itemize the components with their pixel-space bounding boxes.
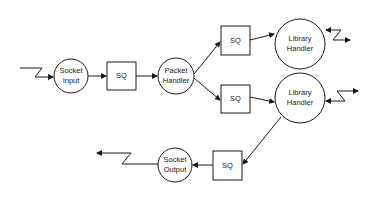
edge-library-handler-2-to-sq4	[243, 117, 281, 164]
socket-input-label-line2: Input	[63, 76, 80, 86]
sq-2-label: SQ	[221, 26, 250, 55]
edge-packet-handler-to-sq3	[194, 78, 220, 100]
library-handler-1-label: Library Handler	[275, 19, 325, 69]
socket-input-label-line1: Socket	[60, 66, 83, 76]
edge-sq2-to-library-handler-1	[250, 34, 274, 40]
socket-output-label: Socket Output	[158, 148, 192, 182]
packet-handler-label-line2: Handler	[163, 76, 189, 86]
library-handler-1-label-line2: Handler	[287, 44, 313, 54]
library-handler-2-label-line1: Library	[289, 88, 312, 98]
sq-3-label: SQ	[221, 85, 250, 113]
packet-handler-label: Packet Handler	[158, 58, 194, 94]
packet-handler-label-line1: Packet	[165, 66, 188, 76]
edge-packet-handler-to-sq2	[194, 42, 220, 74]
edge-sq3-to-library-handler-2	[250, 97, 274, 102]
library-handler-2-label: Library Handler	[275, 73, 325, 123]
sq-1-label: SQ	[107, 62, 136, 90]
diagram-canvas: Socket Input SQ Packet Handler SQ SQ Lib…	[0, 0, 377, 198]
library-handler-1-label-line1: Library	[289, 34, 312, 44]
sq-4-label: SQ	[213, 151, 242, 180]
library-handler-2-lightning-edge	[337, 91, 358, 101]
output-lightning-edge	[97, 153, 158, 164]
socket-output-label-line2: Output	[164, 165, 187, 175]
socket-output-label-line1: Socket	[164, 155, 187, 165]
input-lightning-edge	[20, 68, 53, 77]
library-handler-2-label-line2: Handler	[287, 98, 313, 108]
socket-input-label: Socket Input	[54, 59, 88, 93]
library-handler-1-lightning-edge	[333, 30, 350, 40]
